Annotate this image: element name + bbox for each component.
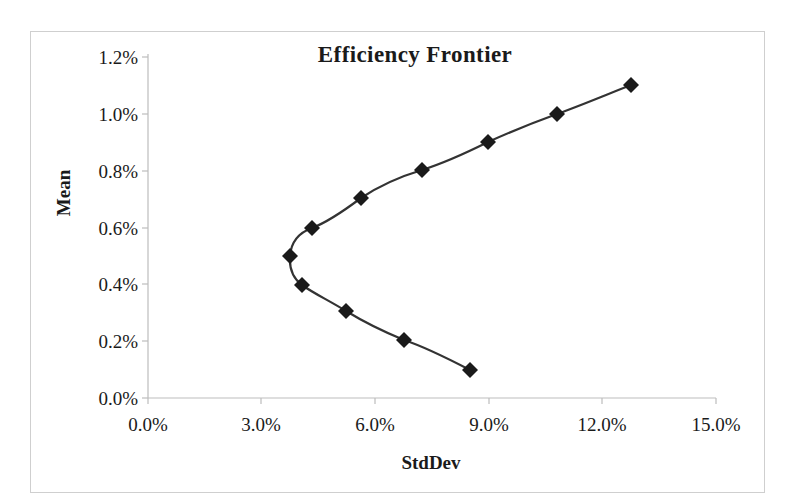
x-axis-title: StdDev: [351, 452, 511, 474]
data-point-marker: [304, 220, 320, 236]
y-axis-tick-label: 0.4%: [82, 274, 138, 296]
y-axis-tick-label: 0.0%: [82, 388, 138, 410]
data-point-marker: [353, 190, 369, 206]
x-axis-tick-label: 9.0%: [449, 414, 529, 436]
chart-figure: Efficiency Frontier 1.2% 1.0% 0.8% 0.6% …: [0, 0, 794, 503]
data-point-marker: [462, 362, 478, 378]
data-point-marker: [414, 162, 430, 178]
x-axis-tick-label: 0.0%: [108, 414, 188, 436]
y-axis-tick-label: 0.8%: [82, 161, 138, 183]
y-axis-tick-label: 1.2%: [82, 47, 138, 69]
y-axis-title: Mean: [53, 148, 75, 238]
data-point-markers: [282, 77, 639, 378]
data-point-marker: [549, 106, 565, 122]
x-axis-tick-label: 15.0%: [676, 414, 756, 436]
x-axis-tick-label: 3.0%: [221, 414, 301, 436]
chart-title: Efficiency Frontier: [250, 42, 580, 68]
y-axis-tick-label: 0.2%: [82, 331, 138, 353]
data-point-marker: [480, 134, 496, 150]
x-axis-ticks: [148, 398, 716, 404]
x-axis-tick-label: 6.0%: [335, 414, 415, 436]
y-axis-tick-label: 0.6%: [82, 218, 138, 240]
data-point-marker: [282, 248, 298, 264]
y-axis-ticks: [142, 57, 148, 398]
frontier-curve: [290, 85, 631, 370]
x-axis-tick-label: 12.0%: [562, 414, 642, 436]
data-point-marker: [623, 77, 639, 93]
data-point-marker: [396, 332, 412, 348]
y-axis-tick-label: 1.0%: [82, 104, 138, 126]
data-point-marker: [338, 303, 354, 319]
